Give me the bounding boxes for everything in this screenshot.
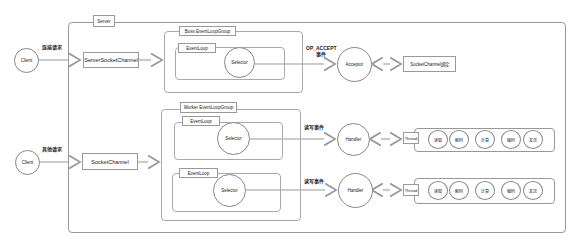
step-send: 发送 [523, 130, 543, 149]
step-encode: 编码 [501, 181, 521, 200]
worker-selector-1: Selector [217, 122, 250, 155]
other-request-label: 其他请求 [42, 146, 62, 152]
client-node: Client [14, 48, 39, 73]
boss-selector: Selector [224, 47, 255, 78]
boss-eventloop-label: EventLoop [178, 43, 216, 53]
server-label: Server [93, 15, 115, 27]
step-read: 读取 [428, 181, 448, 200]
op-accept-event-label: OP_ACCEPT 事件 [306, 45, 337, 57]
step-decode: 解码 [449, 181, 469, 200]
acceptor-node: Acceptor [337, 47, 372, 82]
server-socket-channel-box: ServerSocketChannel [83, 52, 139, 68]
event-text: 事件 [306, 51, 337, 57]
socketchannel-bind-box: SocketChannel绑定 [403, 56, 456, 72]
rw-event-label-2: 读写事件 [304, 178, 324, 184]
handler-node-1: Handler [337, 123, 370, 156]
handler-node-2: Handler [338, 173, 373, 208]
worker-group-label: Worker EventLoopGroup [180, 102, 237, 113]
step-encode: 编码 [501, 130, 521, 149]
worker-selector-2: Selector [213, 174, 246, 207]
worker-eventloop-2-label: EventLoop [179, 168, 218, 178]
boss-group-label: Boss EventLoopGroup [179, 26, 236, 36]
step-decode: 解码 [449, 130, 469, 149]
client-node: Client [15, 150, 40, 175]
thread-box-2: Thread [403, 184, 419, 196]
worker-eventloop-1-label: EventLoop [182, 116, 220, 126]
step-read: 读取 [428, 130, 448, 149]
rw-event-label-1: 读写事件 [304, 124, 324, 130]
step-compute: 计算 [475, 181, 495, 200]
thread-box-1: Thread [403, 132, 419, 144]
socket-channel-box: SocketChannel [82, 153, 138, 170]
connect-request-label: 连接请求 [42, 44, 62, 50]
step-compute: 计算 [475, 130, 495, 149]
step-send: 发送 [523, 181, 543, 200]
